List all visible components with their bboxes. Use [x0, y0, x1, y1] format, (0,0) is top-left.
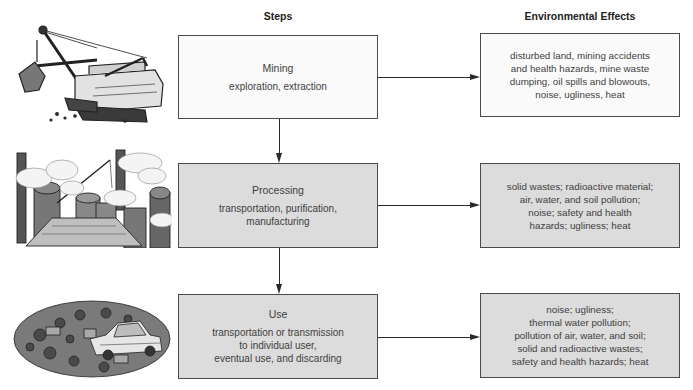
mining-step-title: Mining — [263, 62, 294, 75]
mining-effects-box: disturbed land, mining accidents and hea… — [480, 33, 680, 117]
processing-step-description: transportation, purification, manufactur… — [219, 202, 337, 228]
mining-effects-text: disturbed land, mining accidents and hea… — [510, 49, 651, 101]
processing-step-title: Processing — [252, 184, 304, 197]
use-effects-box: noise; ugliness; thermal water pollution… — [480, 293, 680, 378]
mining-to-processing-connector — [279, 119, 281, 154]
processing-step-box: Processing transportation, purification,… — [178, 163, 378, 248]
use-effects-text: noise; ugliness; thermal water pollution… — [512, 303, 649, 368]
mining-step-description: exploration, extraction — [229, 80, 327, 93]
processing-use-arrowhead-icon — [276, 284, 282, 294]
effects-column-header: Environmental Effects — [480, 10, 680, 22]
steps-column-header: Steps — [178, 10, 378, 22]
use-to-effects-connector — [378, 337, 470, 339]
processing-to-use-connector — [279, 248, 281, 285]
factory-illustration-icon — [12, 148, 172, 248]
use-step-box: Use transportation or transmission to in… — [178, 294, 378, 379]
use-step-description: transportation or transmission to indivi… — [212, 326, 344, 365]
mining-effects-arrowhead-icon — [470, 74, 480, 80]
mining-step-box: Mining exploration, extraction — [178, 35, 378, 119]
power-shovel-illustration-icon — [5, 18, 170, 123]
mining-processing-arrowhead-icon — [276, 153, 282, 163]
processing-effects-box: solid wastes; radioactive material; air,… — [480, 163, 680, 248]
junkyard-illustration-icon — [10, 295, 175, 380]
use-step-title: Use — [269, 308, 288, 321]
mining-to-effects-connector — [378, 77, 470, 79]
processing-effects-arrowhead-icon — [470, 202, 480, 208]
processing-to-effects-connector — [378, 205, 470, 207]
processing-effects-text: solid wastes; radioactive material; air,… — [507, 180, 653, 232]
use-effects-arrowhead-icon — [470, 334, 480, 340]
